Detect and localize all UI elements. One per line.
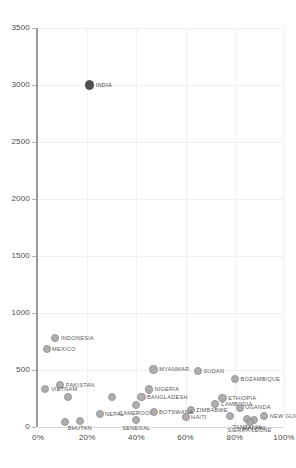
- y-axis-tick-mark: [32, 370, 36, 371]
- data-point-marker[interactable]: [236, 404, 244, 412]
- scatter-chart: 05001000150020002500300035000%20%40%60%8…: [0, 0, 296, 468]
- gridline-horizontal: [38, 142, 284, 143]
- data-point-marker[interactable]: [194, 367, 202, 375]
- data-point-marker[interactable]: [43, 345, 51, 353]
- gridline-horizontal: [38, 199, 284, 200]
- data-point-marker[interactable]: [260, 412, 268, 420]
- x-axis-tick-label: 60%: [166, 433, 206, 442]
- gridline-vertical: [235, 28, 236, 427]
- data-point-label: ZIMBABWE: [196, 407, 228, 413]
- y-axis-tick-mark: [32, 142, 36, 143]
- x-axis-tick-label: 20%: [67, 433, 107, 442]
- y-axis-tick-mark: [32, 427, 36, 428]
- data-point-marker[interactable]: [51, 334, 59, 342]
- data-point-marker[interactable]: [246, 418, 254, 426]
- y-axis-tick-mark: [32, 256, 36, 257]
- y-axis-line: [36, 28, 38, 427]
- gridline-horizontal: [38, 256, 284, 257]
- x-axis-tick-label: 0%: [18, 433, 58, 442]
- y-axis-tick-label: 3500: [0, 23, 30, 32]
- y-axis-tick-mark: [32, 313, 36, 314]
- data-point-label: HAITI: [191, 414, 207, 420]
- data-point-label: BANGLADESH: [147, 394, 188, 400]
- gridline-horizontal: [38, 313, 284, 314]
- y-axis-tick-mark: [32, 28, 36, 29]
- x-axis-tick-label: 80%: [215, 433, 255, 442]
- data-point-marker[interactable]: [64, 393, 72, 401]
- data-point-marker[interactable]: [108, 393, 116, 401]
- data-point-label: ETHIOPIA: [228, 395, 256, 401]
- data-point-label: NEPAL: [105, 411, 124, 417]
- data-point-marker[interactable]: [226, 412, 234, 420]
- data-point-marker[interactable]: [132, 416, 140, 424]
- y-axis-tick-label: 0: [0, 422, 30, 431]
- data-point-label: INDIA: [96, 82, 112, 88]
- y-axis-tick-label: 2000: [0, 194, 30, 203]
- gridline-vertical: [284, 28, 285, 427]
- data-point-label: NIGERIA: [154, 386, 179, 392]
- y-axis-tick-label: 2500: [0, 137, 30, 146]
- x-axis-tick-label: 40%: [116, 433, 156, 442]
- data-point-label: NEW GUINEA: [270, 413, 296, 419]
- data-point-label: VIETNAM: [51, 386, 78, 392]
- data-point-marker[interactable]: [132, 401, 140, 409]
- x-axis-tick-label: 100%: [264, 433, 296, 442]
- data-point-marker[interactable]: [231, 375, 239, 383]
- data-point-marker[interactable]: [137, 393, 145, 401]
- data-point-label: MEXICO: [52, 346, 76, 352]
- data-point-marker[interactable]: [61, 418, 69, 426]
- gridline-vertical: [136, 28, 137, 427]
- data-point-marker[interactable]: [85, 80, 94, 89]
- y-axis-tick-label: 1000: [0, 308, 30, 317]
- y-axis-tick-mark: [32, 199, 36, 200]
- y-axis-tick-mark: [32, 85, 36, 86]
- data-point-label: SIERRA LEONE: [228, 427, 272, 433]
- data-point-label: SUDAN: [203, 368, 224, 374]
- data-point-marker[interactable]: [150, 408, 158, 416]
- data-point-marker[interactable]: [76, 417, 84, 425]
- data-point-marker[interactable]: [96, 410, 104, 418]
- y-axis-tick-label: 1500: [0, 251, 30, 260]
- data-point-marker[interactable]: [149, 365, 157, 373]
- data-point-marker[interactable]: [182, 413, 190, 421]
- data-point-marker[interactable]: [145, 385, 153, 393]
- data-point-label: UGANDA: [245, 404, 270, 410]
- data-point-label: MYANMAR: [159, 366, 189, 372]
- data-point-marker[interactable]: [41, 385, 49, 393]
- y-axis-tick-label: 500: [0, 365, 30, 374]
- data-point-label: INDONESIA: [61, 335, 94, 341]
- gridline-horizontal: [38, 85, 284, 86]
- gridline-horizontal: [38, 28, 284, 29]
- data-point-label: BHUTAN: [58, 425, 102, 431]
- data-point-label: SENEGAL: [114, 425, 158, 431]
- y-axis-tick-label: 3000: [0, 80, 30, 89]
- data-point-label: BOZAMBIQUE: [241, 376, 281, 382]
